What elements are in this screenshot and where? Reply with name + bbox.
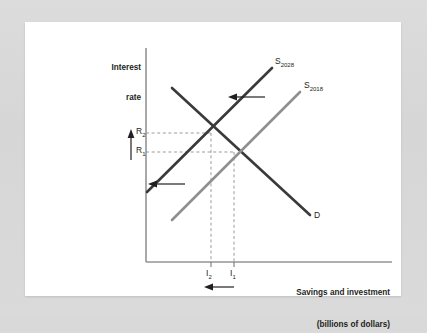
x-axis-title-line1: Savings and investment <box>230 288 390 299</box>
rate-label-r1-sub: 1 <box>142 151 145 157</box>
rate-increase-arrow-icon <box>128 129 135 160</box>
supply-2018-curve <box>172 92 300 220</box>
rate-label-r2: R2 <box>136 126 145 138</box>
rate-label-r1: R1 <box>136 145 145 157</box>
x-axis-title: Savings and investment (billions of doll… <box>230 267 390 333</box>
curve-label-demand: D <box>314 210 320 220</box>
y-axis-title-line1: Interest <box>93 63 141 73</box>
curve-label-supply-2028: S2028 <box>275 56 294 68</box>
curve-label-demand-text: D <box>314 210 320 220</box>
chart-canvas <box>25 22 401 296</box>
quantity-label-i2: I2 <box>206 268 212 280</box>
y-axis-title: Interest rate <box>93 42 141 124</box>
curve-label-supply-2028-sub: 2028 <box>281 62 294 68</box>
economics-supply-demand-figure: Interest rate Savings and investment (bi… <box>25 22 401 296</box>
quantity-label-i1: I1 <box>230 268 236 280</box>
curve-label-supply-2018-sub: 2018 <box>310 86 323 92</box>
rate-label-r2-sub: 2 <box>142 132 145 138</box>
x-axis-title-line2: (billions of dollars) <box>230 320 390 331</box>
curve-label-supply-2018: S2018 <box>304 80 323 92</box>
y-axis-title-line2: rate <box>93 93 141 103</box>
figure-card: Interest rate Savings and investment (bi… <box>25 22 401 296</box>
supply-2028-curve <box>147 68 272 192</box>
quantity-label-i1-sub: 1 <box>232 274 235 280</box>
quantity-label-i2-sub: 2 <box>208 274 211 280</box>
